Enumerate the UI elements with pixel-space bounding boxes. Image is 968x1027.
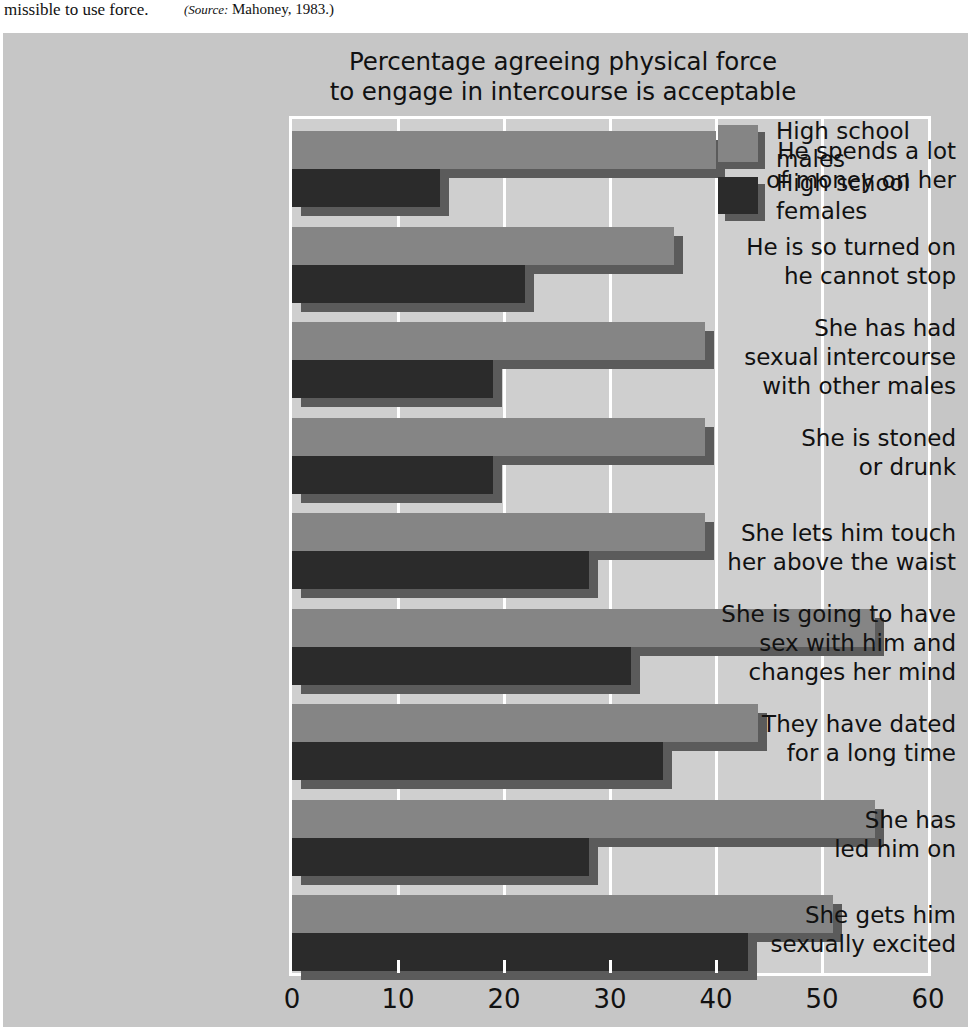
category-label-line: She gets him <box>696 901 956 930</box>
x-axis-tick-label-10: 10 <box>368 984 428 1014</box>
chart-title-line-1: Percentage agreeing physical force <box>193 47 933 77</box>
x-axis-tick-50 <box>821 960 824 973</box>
x-axis-tick-label-20: 20 <box>474 984 534 1014</box>
x-axis-tick-10 <box>397 960 400 973</box>
category-label: She is stonedor drunk <box>696 424 968 482</box>
category-label-line: for a long time <box>696 739 956 768</box>
category-label-line: or drunk <box>696 453 956 482</box>
x-axis-tick-label-60: 60 <box>898 984 958 1014</box>
category-label: She has hadsexual intercoursewith other … <box>696 314 968 401</box>
category-label: He is so turned onhe cannot stop <box>696 233 968 291</box>
bar-females[interactable] <box>292 647 631 685</box>
category-label-line: She is stoned <box>696 424 956 453</box>
caption-source-value: Mahoney, 1983.) <box>232 1 334 17</box>
caption-text: missible to use force. <box>4 0 148 20</box>
legend-swatch-females-icon <box>718 177 758 214</box>
x-axis-tick-label-0: 0 <box>262 984 322 1014</box>
bar-females[interactable] <box>292 838 589 876</box>
category-label-line: sex with him and <box>696 629 956 658</box>
bar-females[interactable] <box>292 169 440 207</box>
bar-males[interactable] <box>292 513 705 551</box>
bar-females[interactable] <box>292 551 589 589</box>
category-label-line: with other males <box>696 372 956 401</box>
category-label-line: her above the waist <box>696 548 956 577</box>
x-axis-tick-40 <box>715 960 718 973</box>
bar-females[interactable] <box>292 360 493 398</box>
bar-females[interactable] <box>292 265 525 303</box>
legend-label-males-line-1: High school <box>776 118 910 144</box>
category-label-line: She is going to have <box>696 600 956 629</box>
x-axis-tick-label-30: 30 <box>580 984 640 1014</box>
bar-females[interactable] <box>292 742 663 780</box>
category-label-line: She has had <box>696 314 956 343</box>
category-label-line: led him on <box>696 835 956 864</box>
category-label-line: She lets him touch <box>696 519 956 548</box>
category-label-line: sexually excited <box>696 930 956 959</box>
legend-item-high-school-males[interactable]: High schoolmales <box>718 121 958 173</box>
category-label-line: He is so turned on <box>696 233 956 262</box>
bar-males[interactable] <box>292 704 758 742</box>
bar-males[interactable] <box>292 227 674 265</box>
category-label-line: sexual intercourse <box>696 343 956 372</box>
legend-label-females-line-1: High school <box>776 170 910 196</box>
bar-females[interactable] <box>292 456 493 494</box>
chart-legend: High schoolmales High schoolfemales <box>718 121 958 225</box>
bar-males[interactable] <box>292 131 716 169</box>
x-axis-tick-20 <box>503 960 506 973</box>
x-axis-tick-label-40: 40 <box>686 984 746 1014</box>
bar-males[interactable] <box>292 418 705 456</box>
x-axis-tick-label-50: 50 <box>792 984 852 1014</box>
x-axis-tick-30 <box>609 960 612 973</box>
legend-label-females: High schoolfemales <box>776 169 910 225</box>
figure-panel: Percentage agreeing physical force to en… <box>0 30 968 1027</box>
category-label-line: changes her mind <box>696 658 956 687</box>
category-label: They have datedfor a long time <box>696 710 968 768</box>
category-label: She lets him touchher above the waist <box>696 519 968 577</box>
chart-title-line-2: to engage in intercourse is acceptable <box>193 77 933 107</box>
caption-source: (Source: Mahoney, 1983.) <box>184 1 334 18</box>
bar-males[interactable] <box>292 322 705 360</box>
bar-females[interactable] <box>292 933 748 971</box>
legend-label-females-line-2: females <box>776 198 867 224</box>
category-label: She is going to havesex with him andchan… <box>696 600 968 687</box>
caption-source-label: (Source: <box>184 2 228 17</box>
chart-title: Percentage agreeing physical force to en… <box>193 47 933 107</box>
category-label: She hasled him on <box>696 806 968 864</box>
legend-swatch-males-icon <box>718 125 758 162</box>
category-label-line: She has <box>696 806 956 835</box>
category-label: She gets himsexually excited <box>696 901 968 959</box>
category-label-line: he cannot stop <box>696 262 956 291</box>
legend-item-high-school-females[interactable]: High schoolfemales <box>718 173 958 225</box>
page-caption-strip: missible to use force. (Source: Mahoney,… <box>0 0 968 30</box>
category-label-line: They have dated <box>696 710 956 739</box>
legend-label-males: High schoolmales <box>776 117 910 173</box>
